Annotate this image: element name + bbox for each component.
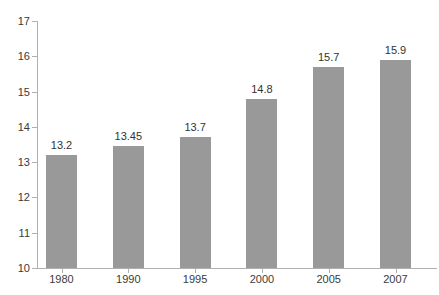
y-axis-tick-label: 12 (2, 192, 30, 203)
bar (113, 146, 144, 268)
y-axis-tick-label: 17 (2, 16, 30, 27)
y-axis-tick (32, 127, 37, 128)
x-axis-category-label: 1980 (32, 274, 92, 285)
y-axis-tick (32, 21, 37, 22)
bar-chart: 1011121314151617 13.213.4513.714.815.715… (0, 0, 439, 295)
y-axis-tick (32, 56, 37, 57)
x-axis-line (37, 268, 437, 269)
bar-value-label: 13.45 (98, 131, 158, 142)
y-axis-tick (32, 162, 37, 163)
x-axis-category-label: 2007 (366, 274, 426, 285)
bar-value-label: 15.7 (299, 52, 359, 63)
y-axis-tick (32, 197, 37, 198)
y-axis-tick-label: 15 (2, 86, 30, 97)
y-axis-tick-label: 14 (2, 121, 30, 132)
x-axis-category-label: 1990 (98, 274, 158, 285)
y-axis-tick-label: 13 (2, 157, 30, 168)
bar (313, 67, 344, 268)
plot-area: 1011121314151617 13.213.4513.714.815.715… (0, 0, 439, 295)
y-axis-tick (32, 233, 37, 234)
bar (380, 60, 411, 268)
y-axis-tick-label: 10 (2, 263, 30, 274)
y-axis-tick-label: 16 (2, 51, 30, 62)
bar (246, 99, 277, 268)
bar-value-label: 14.8 (232, 84, 292, 95)
bar-value-label: 13.2 (32, 140, 92, 151)
x-axis-category-label: 1995 (165, 274, 225, 285)
y-axis-tick (32, 268, 37, 269)
x-axis-category-label: 2000 (232, 274, 292, 285)
bar (46, 155, 77, 268)
bar-value-label: 13.7 (165, 122, 225, 133)
y-axis-tick (32, 92, 37, 93)
x-axis-category-label: 2005 (299, 274, 359, 285)
bar (180, 137, 211, 268)
y-axis-tick-label: 11 (2, 227, 30, 238)
bar-value-label: 15.9 (366, 45, 426, 56)
